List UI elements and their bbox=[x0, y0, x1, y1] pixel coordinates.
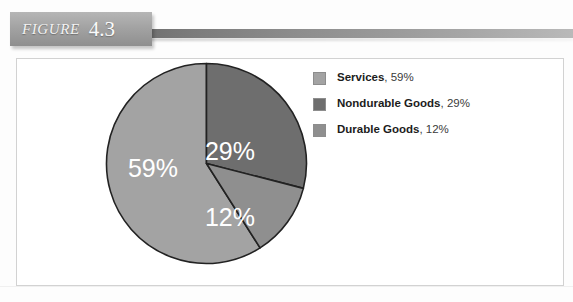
pie-chart-svg: 59% 29% 12% bbox=[105, 62, 308, 265]
legend-item-services[interactable]: Services, 59% bbox=[313, 68, 543, 88]
legend-item-nondurable-goods[interactable]: Nondurable Goods, 29% bbox=[313, 94, 543, 114]
figure-banner-tail bbox=[140, 29, 573, 38]
figure-number: 4.3 bbox=[89, 19, 115, 40]
legend-swatch-durable-goods bbox=[313, 124, 326, 137]
legend-label-services: Services, 59% bbox=[337, 72, 414, 84]
legend-item-durable-goods[interactable]: Durable Goods, 12% bbox=[313, 120, 543, 140]
legend-swatch-services bbox=[313, 72, 326, 85]
legend-label-durable-goods: Durable Goods, 12% bbox=[337, 124, 449, 136]
legend-name-services: Services bbox=[337, 71, 384, 83]
figure-label: FIGURE bbox=[22, 22, 80, 37]
page-edge-line bbox=[0, 286, 573, 287]
figure-banner-tail-shadow bbox=[140, 38, 573, 41]
chart-legend: Services, 59% Nondurable Goods, 29% Dura… bbox=[313, 68, 543, 146]
legend-name-durable-goods: Durable Goods bbox=[337, 123, 419, 135]
legend-label-nondurable-goods: Nondurable Goods, 29% bbox=[337, 98, 470, 110]
figure-page: FIGURE 4.3 59% 29% 12% Services, 59% bbox=[0, 0, 573, 302]
legend-value-durable-goods: 12% bbox=[426, 123, 449, 135]
pie-label-durable: 12% bbox=[205, 203, 255, 231]
legend-swatch-nondurable-goods bbox=[313, 98, 326, 111]
legend-value-services: 59% bbox=[391, 71, 414, 83]
pie-chart: 59% 29% 12% bbox=[105, 62, 308, 265]
legend-value-nondurable-goods: 29% bbox=[447, 97, 470, 109]
pie-label-services: 59% bbox=[128, 154, 178, 182]
pie-label-nondurable: 29% bbox=[205, 137, 255, 165]
figure-banner: FIGURE 4.3 bbox=[10, 12, 152, 46]
figure-banner-content: FIGURE 4.3 bbox=[10, 12, 152, 46]
legend-name-nondurable-goods: Nondurable Goods bbox=[337, 97, 441, 109]
